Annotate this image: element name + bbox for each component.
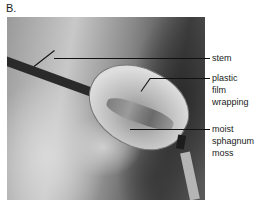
stem-leader-line [54, 58, 210, 59]
label-stem-text: stem [212, 53, 232, 63]
label-line: moist [212, 123, 254, 135]
label-line: sphagnum [212, 135, 254, 147]
label-line: plastic [212, 72, 249, 84]
air-layering-photo [7, 17, 205, 200]
label-stem: stem [212, 52, 232, 64]
label-moist-sphagnum-moss: moist sphagnum moss [212, 123, 254, 159]
label-plastic-film-wrapping: plastic film wrapping [212, 72, 249, 108]
stem-lower-graphic [176, 134, 186, 149]
wrap-leader-line [150, 78, 210, 79]
moss-leader-line [130, 129, 210, 130]
label-line: film [212, 84, 249, 96]
panel-label: B. [6, 2, 16, 14]
tie-graphic [180, 151, 200, 200]
label-line: moss [212, 147, 254, 159]
label-line: wrapping [212, 96, 249, 108]
